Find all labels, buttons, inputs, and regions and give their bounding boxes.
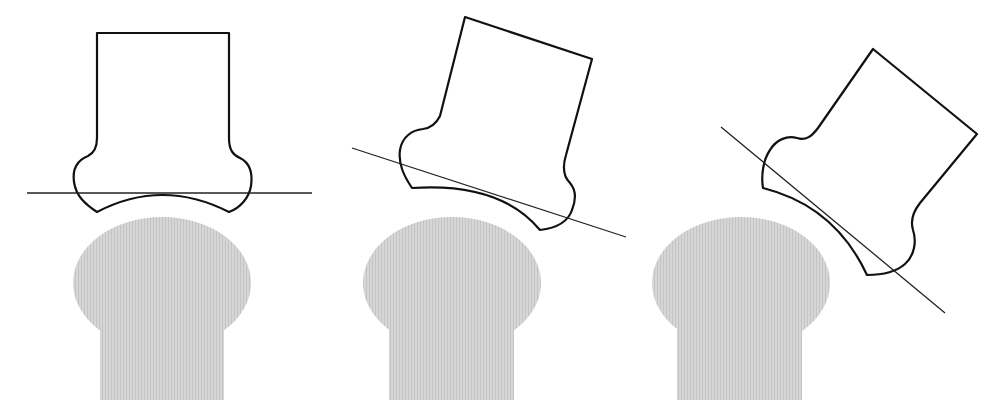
joint-diagram bbox=[0, 0, 990, 417]
convex-bone-head bbox=[652, 217, 830, 400]
convex-bone-shaft bbox=[389, 318, 514, 400]
concave-bone-outline bbox=[74, 33, 252, 212]
convex-bone-shaft bbox=[100, 318, 224, 400]
concave-bone-outline bbox=[400, 17, 592, 230]
convex-bone-head bbox=[73, 217, 251, 400]
panel-tilted-moderate bbox=[352, 17, 626, 400]
panel-tilted-large bbox=[652, 49, 977, 400]
panel-neutral bbox=[27, 33, 312, 400]
convex-bone-shaft bbox=[677, 318, 802, 400]
convex-bone-head bbox=[363, 217, 541, 400]
